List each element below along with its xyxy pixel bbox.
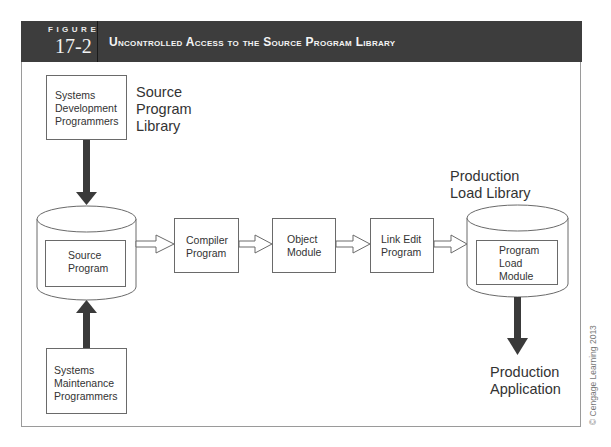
box-text: Program <box>68 262 125 275</box>
source-program-library-label: Source Program Library <box>136 84 192 135</box>
box-text: Load <box>499 257 557 270</box>
label-text: Production <box>450 168 531 185</box>
box-text: Program <box>186 247 238 260</box>
arrow-down-dark-icon <box>76 140 97 205</box>
link-edit-program-box: Link Edit Program <box>370 218 434 273</box>
label-text: Production <box>490 364 561 381</box>
box-text: Programmers <box>55 115 126 128</box>
systems-development-programmers-box: Systems Development Programmers <box>46 75 127 140</box>
arrow-right-hollow-icon <box>239 235 272 253</box>
arrow-up-dark-icon <box>76 300 97 348</box>
arrow-right-hollow-icon <box>136 235 174 253</box>
arrow-right-hollow-icon <box>434 235 467 253</box>
production-application-label: Production Application <box>490 364 561 398</box>
box-text: Systems <box>54 364 126 377</box>
label-text: Load Library <box>450 185 531 202</box>
compiler-program-box: Compiler Program <box>174 218 239 273</box>
label-text: Source <box>136 84 192 101</box>
object-module-box: Object Module <box>272 218 336 273</box>
box-text: Link Edit <box>381 233 433 246</box>
label-text: Program <box>136 101 192 118</box>
source-program-box: Source Program <box>45 240 126 287</box>
box-text: Source <box>68 249 125 262</box>
box-text: Programmers <box>54 390 126 403</box>
box-text: Systems <box>55 89 126 102</box>
box-text: Module <box>499 270 557 283</box>
box-text: Development <box>55 102 126 115</box>
arrow-right-hollow-icon <box>336 235 370 253</box>
label-text: Application <box>490 381 561 398</box>
program-load-module-box: Program Load Module <box>476 240 558 285</box>
box-text: Maintenance <box>54 377 126 390</box>
box-text: Program <box>381 246 433 259</box>
production-load-library-label: Production Load Library <box>450 168 531 202</box>
arrow-down-dark-icon <box>507 297 528 355</box>
box-text: Compiler <box>186 234 238 247</box>
label-text: Library <box>136 118 192 135</box>
box-text: Object <box>287 233 335 246</box>
box-text: Module <box>287 246 335 259</box>
systems-maintenance-programmers-box: Systems Maintenance Programmers <box>46 348 127 414</box>
box-text: Program <box>499 244 557 257</box>
copyright-notice: © Cengage Learning 2013 <box>588 325 598 425</box>
